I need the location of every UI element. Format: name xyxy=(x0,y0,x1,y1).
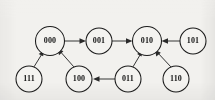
node-100-label: 100 xyxy=(73,74,86,83)
node-100[interactable]: 100 xyxy=(66,66,92,92)
node-000[interactable]: 000 xyxy=(36,27,65,56)
edge-011-to-010-line xyxy=(133,54,140,66)
node-011-label: 011 xyxy=(122,74,134,83)
node-111-label: 111 xyxy=(23,74,35,83)
edge-101-to-010 xyxy=(162,38,181,44)
node-110-label: 110 xyxy=(170,74,182,83)
node-011[interactable]: 011 xyxy=(115,66,141,92)
graph-figure: 000 001 010 101 111 100 xyxy=(0,0,215,100)
node-001-label: 001 xyxy=(93,36,106,45)
node-010-label: 010 xyxy=(141,36,154,45)
edge-111-to-000-line xyxy=(34,54,42,67)
node-000-label: 000 xyxy=(44,36,57,45)
edge-100-to-000-line xyxy=(61,52,74,67)
edge-001-to-010 xyxy=(112,38,133,44)
graph-canvas: 000 001 010 101 111 100 xyxy=(0,0,215,100)
node-110[interactable]: 110 xyxy=(163,66,189,92)
node-001[interactable]: 001 xyxy=(86,28,112,54)
edge-110-to-010-line xyxy=(158,53,171,67)
node-111[interactable]: 111 xyxy=(16,66,42,92)
node-101-label: 101 xyxy=(187,36,200,45)
node-layer: 000 001 010 101 111 100 xyxy=(16,27,206,93)
node-101[interactable]: 101 xyxy=(180,28,206,54)
edge-000-to-001-arrowhead xyxy=(80,38,87,44)
edge-011-to-100 xyxy=(93,76,115,82)
node-010[interactable]: 010 xyxy=(133,27,162,56)
edge-011-to-100-arrowhead xyxy=(93,76,100,82)
edge-101-to-010-arrowhead xyxy=(162,38,169,44)
edge-001-to-010-arrowhead xyxy=(126,38,133,44)
edge-000-to-001 xyxy=(65,38,87,44)
edge-110-to-010 xyxy=(155,50,171,67)
